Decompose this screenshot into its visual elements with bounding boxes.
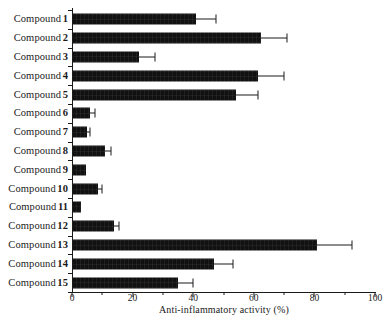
category-label-text: Compound — [14, 70, 61, 81]
y-axis-tick — [68, 85, 72, 86]
error-bar-line — [317, 244, 352, 245]
y-axis-tick — [68, 29, 72, 30]
y-axis-tick — [68, 104, 72, 105]
y-axis-tick — [68, 236, 72, 237]
category-label-number: 15 — [57, 276, 68, 287]
x-axis-minor-tick — [162, 292, 163, 295]
category-label: Compound7 — [14, 127, 68, 138]
bar — [72, 164, 86, 175]
error-bar-line — [258, 75, 284, 76]
error-bar-line — [196, 19, 216, 20]
x-tick-label: 40 — [188, 294, 198, 304]
error-bar-cap — [258, 90, 259, 99]
error-bar-cap — [215, 15, 216, 24]
category-label-number: 2 — [63, 32, 68, 43]
category-label-number: 1 — [63, 13, 68, 24]
error-bar-line — [214, 263, 232, 264]
bar — [72, 14, 196, 25]
category-label-text: Compound — [8, 182, 55, 193]
category-label-text: Compound — [14, 32, 61, 43]
category-label-text: Compound — [14, 107, 61, 118]
category-label-text: Compound — [14, 164, 61, 175]
bar — [72, 108, 90, 119]
x-axis-minor-tick — [102, 292, 103, 295]
bar-row: Compound15 — [72, 273, 375, 292]
bar — [72, 183, 98, 194]
error-bar-cap — [111, 146, 112, 155]
category-label-text: Compound — [9, 201, 56, 212]
category-label-number: 9 — [63, 164, 68, 175]
bar-row: Compound8 — [72, 142, 375, 161]
error-bar-line — [178, 282, 193, 283]
y-axis-tick — [68, 254, 72, 255]
category-label: Compound6 — [14, 108, 68, 119]
error-bar-cap — [90, 128, 91, 137]
y-axis-tick — [68, 160, 72, 161]
y-axis-tick — [68, 273, 72, 274]
bar-row: Compound2 — [72, 29, 375, 48]
error-bar-cap — [118, 222, 119, 231]
chart-figure: Compound1Compound2Compound3Compound4Comp… — [0, 0, 388, 324]
y-axis-tick — [68, 10, 72, 11]
category-label: Compound2 — [14, 33, 68, 44]
category-label: Compound1 — [14, 14, 68, 25]
category-label-text: Compound — [8, 276, 55, 287]
x-axis-minor-tick — [284, 292, 285, 295]
x-axis-minor-tick — [344, 292, 345, 295]
bar-row: Compound5 — [72, 85, 375, 104]
category-label-number: 3 — [63, 51, 68, 62]
bar-row: Compound3 — [72, 48, 375, 67]
y-axis-line — [72, 8, 73, 293]
bar-row: Compound13 — [72, 236, 375, 255]
bar — [72, 258, 214, 269]
bar-row: Compound10 — [72, 179, 375, 198]
bar — [72, 70, 258, 81]
error-bar-cap — [352, 240, 353, 249]
category-label-number: 5 — [63, 88, 68, 99]
category-label-text: Compound — [14, 13, 61, 24]
error-bar-line — [139, 56, 156, 57]
category-label: Compound9 — [14, 165, 68, 176]
error-bar-cap — [287, 34, 288, 43]
bar — [72, 202, 81, 213]
bar — [72, 239, 317, 250]
category-label-text: Compound — [8, 258, 55, 269]
y-axis-tick — [68, 217, 72, 218]
error-bar-line — [261, 38, 287, 39]
y-axis-tick — [68, 198, 72, 199]
y-axis-tick — [68, 66, 72, 67]
category-label: Compound11 — [9, 202, 68, 213]
bar — [72, 127, 87, 138]
bar — [72, 221, 114, 232]
bar — [72, 277, 178, 288]
category-label: Compound4 — [14, 71, 68, 82]
bar — [72, 89, 236, 100]
error-bar-cap — [94, 109, 95, 118]
y-axis-tick — [68, 48, 72, 49]
bar-row: Compound1 — [72, 10, 375, 29]
bar — [72, 33, 261, 44]
category-label-text: Compound — [14, 51, 61, 62]
category-label: Compound3 — [14, 52, 68, 63]
y-axis-tick — [68, 179, 72, 180]
x-axis-minor-tick — [223, 292, 224, 295]
x-tick-label: 0 — [70, 294, 75, 304]
category-label-text: Compound — [14, 126, 61, 137]
error-bar-cap — [284, 71, 285, 80]
error-bar-line — [236, 94, 259, 95]
category-label-text: Compound — [14, 88, 61, 99]
category-label-number: 8 — [63, 145, 68, 156]
error-bar-cap — [155, 52, 156, 61]
category-label-number: 4 — [63, 70, 68, 81]
category-label: Compound13 — [8, 240, 68, 251]
category-label: Compound14 — [8, 259, 68, 270]
category-label-number: 6 — [63, 107, 68, 118]
x-axis-line — [72, 292, 376, 293]
category-label-number: 7 — [63, 126, 68, 137]
bar — [72, 51, 139, 62]
bar-row: Compound11 — [72, 198, 375, 217]
plot-area: Compound1Compound2Compound3Compound4Comp… — [72, 10, 375, 292]
category-label: Compound12 — [8, 221, 68, 232]
y-axis-tick — [68, 142, 72, 143]
x-tick-label: 60 — [249, 294, 259, 304]
